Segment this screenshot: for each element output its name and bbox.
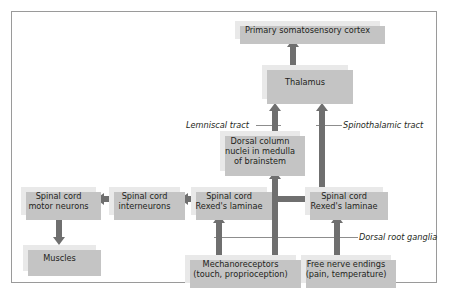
node-label-line2: Rexed's laminae: [196, 201, 263, 211]
node-label-line2: interneurons: [119, 201, 171, 211]
node-free-nerve-endings: Free nerve endings (pain, temperature): [301, 255, 391, 283]
arrow-rexed-right-to-rexed-left-shaft: [275, 196, 307, 202]
arrow-mechanoreceptors-to-dorsal-column-shaft: [272, 179, 278, 255]
arrow-spinothalamic-shaft: [319, 111, 325, 188]
node-label-line2: Rexed's laminae: [311, 201, 378, 211]
node-label-line1: Spinal cord: [36, 191, 82, 201]
node-dorsal-column-nuclei: Dorsal column nuclei in medulla of brain…: [220, 131, 300, 171]
figure-frame: Primary somatosensory cortex Thalamus Do…: [11, 11, 437, 283]
node-spinal-cord-rexeds-laminae-left: Spinal cord Rexed's laminae: [191, 187, 267, 215]
arrow-motor-neurons-to-muscles-shaft: [56, 220, 62, 237]
arrow-thalamus-to-cortex-shaft: [290, 47, 296, 65]
node-thalamus: Thalamus: [262, 65, 348, 99]
annotation-dorsal-root-ganglia: Dorsal root ganglia: [359, 232, 437, 242]
annotation-lemniscal-tract: Lemniscal tract: [186, 120, 249, 130]
node-label-line3: of brainstem: [234, 156, 286, 166]
node-label-line1: Spinal cord: [321, 191, 367, 201]
node-label-line2: motor neurons: [28, 201, 88, 211]
node-label: Thalamus: [285, 77, 325, 87]
node-label-line1: Dorsal column: [231, 136, 290, 146]
node-primary-somatosensory-cortex: Primary somatosensory cortex: [235, 21, 380, 39]
node-muscles: Muscles: [23, 245, 96, 271]
node-spinal-cord-interneurons: Spinal cord interneurons: [109, 187, 180, 215]
node-label-line2: (pain, temperature): [306, 269, 387, 279]
arrow-lemniscal-head: [269, 103, 281, 111]
annotation-label: Lemniscal tract: [186, 120, 249, 130]
arrow-motor-neurons-to-muscles-head: [53, 237, 65, 245]
arrow-spinothalamic-head: [316, 103, 328, 111]
node-label-line2: (touch, proprioception): [193, 269, 287, 279]
node-spinal-cord-motor-neurons: Spinal cord motor neurons: [21, 187, 96, 215]
node-label: Muscles: [43, 253, 76, 263]
node-label-line2: nuclei in medulla: [225, 146, 295, 156]
node-spinal-cord-rexeds-laminae-right: Spinal cord Rexed's laminae: [305, 187, 383, 215]
node-label: Primary somatosensory cortex: [245, 25, 370, 35]
annotation-spinothalamic-tract: Spinothalamic tract: [343, 120, 423, 130]
arrow-mechanoreceptors-to-rexed-left-shaft: [216, 223, 222, 255]
node-mechanoreceptors: Mechanoreceptors (touch, proprioception): [185, 255, 296, 283]
node-label-line1: Free nerve endings: [307, 259, 385, 269]
annotation-label: Dorsal root ganglia: [359, 232, 437, 242]
node-label-line1: Spinal cord: [122, 191, 168, 201]
arrow-lemniscal-shaft: [272, 111, 278, 132]
node-label-line1: Mechanoreceptors: [203, 259, 279, 269]
arrow-free-nerve-to-rexed-right-shaft: [334, 223, 340, 255]
node-label-line1: Spinal cord: [206, 191, 252, 201]
annotation-label: Spinothalamic tract: [343, 120, 423, 130]
